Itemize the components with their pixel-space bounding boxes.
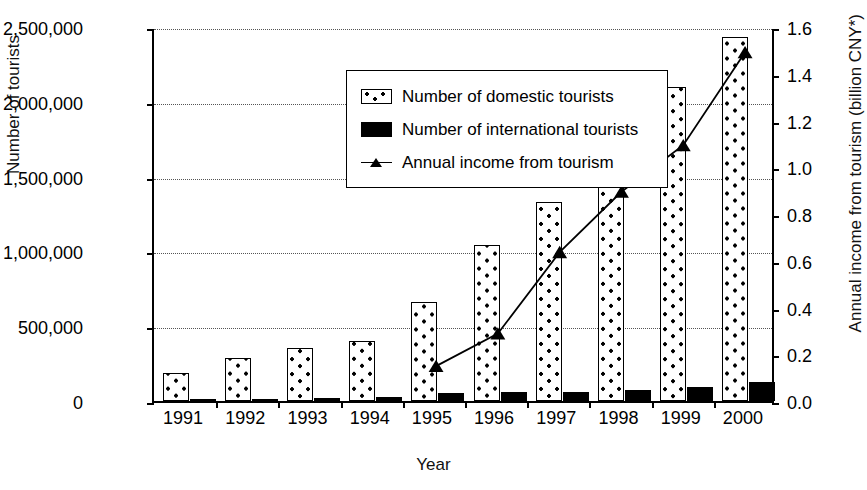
legend-label-international: Number of international tourists	[402, 120, 638, 140]
plot-area: Number of domestic tourists Number of in…	[152, 29, 774, 403]
y-axis-right-tick	[772, 356, 779, 358]
y-axis-left-tick	[147, 328, 154, 330]
bar-domestic	[163, 373, 189, 401]
y-axis-left-tick-label: 500,000	[0, 319, 83, 337]
bar-international	[625, 390, 651, 401]
y-axis-left-tick	[147, 253, 154, 255]
x-axis-tick	[527, 401, 529, 408]
bar-domestic	[474, 245, 500, 401]
legend-item-domestic: Number of domestic tourists	[361, 80, 667, 113]
y-axis-right-tick	[772, 263, 779, 265]
x-axis-tick-label: 1995	[412, 408, 452, 429]
bar-international	[749, 382, 775, 401]
legend-item-international: Number of international tourists	[361, 113, 667, 146]
bar-international	[563, 392, 589, 401]
x-axis-tick-label: 1993	[287, 408, 327, 429]
y-axis-right-tick	[772, 29, 779, 31]
x-axis-tick	[278, 401, 280, 408]
x-axis-tick	[341, 401, 343, 408]
bar-domestic	[349, 341, 375, 401]
legend-label-domestic: Number of domestic tourists	[402, 87, 614, 107]
chart-legend: Number of domestic tourists Number of in…	[346, 70, 668, 188]
x-axis-tick-label: 1991	[163, 408, 203, 429]
x-axis-tick-label: 1998	[598, 408, 638, 429]
bar-international	[501, 392, 527, 401]
x-axis-tick	[403, 401, 405, 408]
x-axis-tick-label: 1996	[474, 408, 514, 429]
black-bar-swatch-icon	[361, 122, 392, 137]
y-axis-right-tick-label: 1.6	[787, 20, 847, 38]
bar-international	[314, 398, 340, 401]
gridline	[154, 29, 772, 30]
y-axis-left-tick-label: 2,500,000	[0, 20, 83, 38]
bar-international	[438, 393, 464, 401]
y-axis-right-tick-label: 0.2	[787, 347, 847, 365]
dotted-bar-swatch-icon	[361, 89, 392, 104]
legend-label-income: Annual income from tourism	[402, 153, 614, 173]
x-axis-tick-label: 1997	[536, 408, 576, 429]
y-axis-left-tick-label: 1,000,000	[0, 244, 83, 262]
y-axis-right-title: Annual income from tourism (billion CNY*…	[846, 14, 866, 332]
y-axis-left-tick-label: 2,000,000	[0, 95, 83, 113]
bar-domestic	[225, 358, 251, 401]
y-axis-left-tick	[147, 403, 154, 405]
y-axis-right-tick-label: 0.6	[787, 254, 847, 272]
y-axis-right-tick	[772, 403, 779, 405]
y-axis-right-tick	[772, 123, 779, 125]
y-axis-left-tick-label: 1,500,000	[0, 170, 83, 188]
y-axis-left-tick-label: 0	[0, 394, 83, 412]
bar-domestic	[536, 202, 562, 401]
x-axis-tick	[589, 401, 591, 408]
y-axis-right-tick	[772, 216, 779, 218]
tourism-chart: Number of tourists Annual income from to…	[0, 0, 867, 490]
legend-item-income: Annual income from tourism	[361, 146, 667, 179]
y-axis-left-tick	[147, 179, 154, 181]
y-axis-right-tick	[772, 310, 779, 312]
y-axis-right-tick-label: 1.0	[787, 160, 847, 178]
bar-international	[190, 399, 216, 401]
x-axis-title: Year	[0, 455, 867, 475]
x-axis-tick-label: 1992	[225, 408, 265, 429]
x-axis-tick	[714, 401, 716, 408]
y-axis-right-tick-label: 0.4	[787, 301, 847, 319]
bar-domestic	[598, 175, 624, 401]
bar-international	[252, 399, 278, 401]
line-triangle-swatch-icon	[361, 155, 392, 170]
y-axis-right-tick-label: 1.2	[787, 114, 847, 132]
y-axis-right-tick	[772, 76, 779, 78]
bar-international	[376, 397, 402, 401]
x-axis-tick	[652, 401, 654, 408]
y-axis-right-tick-label: 0.8	[787, 207, 847, 225]
y-axis-right-tick-label: 1.4	[787, 67, 847, 85]
bar-international	[687, 387, 713, 401]
x-axis-tick-label: 1994	[350, 408, 390, 429]
y-axis-left-tick	[147, 104, 154, 106]
y-axis-right-tick	[772, 169, 779, 171]
y-axis-right-tick-label: 0.0	[787, 394, 847, 412]
x-axis-tick	[465, 401, 467, 408]
x-axis-tick-label: 1999	[661, 408, 701, 429]
bar-domestic	[722, 37, 748, 401]
bar-domestic	[411, 302, 437, 401]
y-axis-left-tick	[147, 29, 154, 31]
x-axis-tick-label: 2000	[723, 408, 763, 429]
x-axis-tick	[216, 401, 218, 408]
bar-domestic	[287, 348, 313, 401]
